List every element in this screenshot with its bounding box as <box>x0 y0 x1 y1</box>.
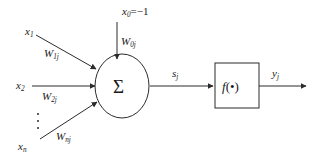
activation-function-label: f(•) <box>222 79 239 95</box>
input-ellipsis <box>37 113 39 134</box>
input-label-x1: x1 <box>25 26 34 39</box>
net-input-label: sj <box>172 68 178 81</box>
output-label: yj <box>272 68 279 81</box>
weight-label-w1j: W1j <box>44 48 59 61</box>
bias-input-label: x0=−1 <box>122 6 148 19</box>
neuron-diagram: x0=−1 W0j x1 W1j x2 W2j xn Wnj Σ sj f(•) <box>0 0 319 165</box>
weight-label-wnj: Wnj <box>56 131 71 144</box>
bias-weight-label: W0j <box>121 36 136 49</box>
diagram-canvas <box>0 0 319 165</box>
input-label-x2: x2 <box>16 80 25 93</box>
weight-label-w2j: W2j <box>42 91 57 104</box>
input-label-xn: xn <box>18 141 27 154</box>
summation-symbol: Σ <box>113 76 124 98</box>
